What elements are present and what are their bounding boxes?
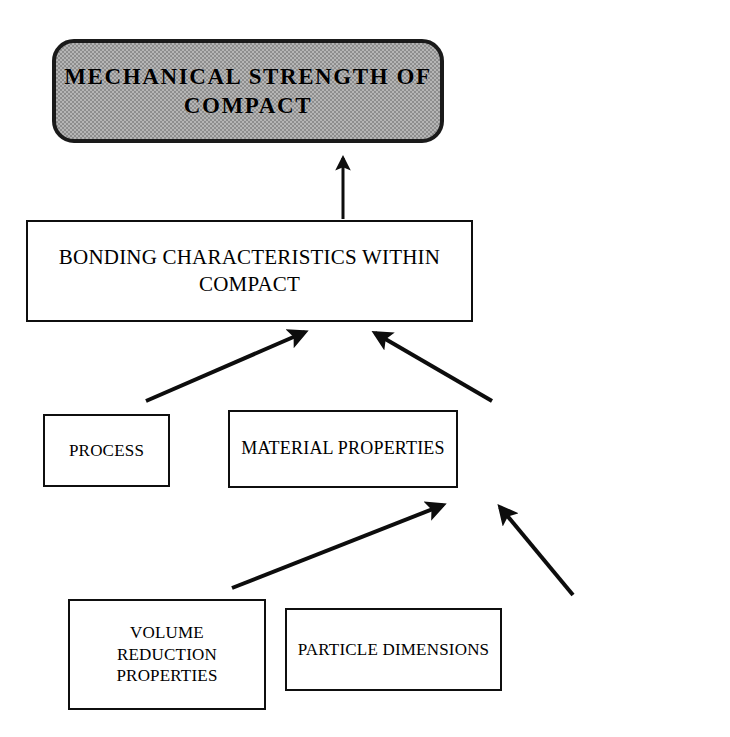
- node-process[interactable]: PROCESS: [43, 414, 170, 487]
- node-material-properties[interactable]: MATERIAL PROPERTIES: [228, 410, 458, 488]
- node-label-root: MECHANICAL STRENGTH OF COMPACT: [56, 62, 440, 121]
- diagram-canvas: MECHANICAL STRENGTH OF COMPACT BONDING C…: [0, 0, 730, 737]
- node-label-material: MATERIAL PROPERTIES: [233, 437, 453, 460]
- arrow-material-to-bonding: [375, 333, 492, 401]
- arrow-volume-to-material: [232, 505, 443, 588]
- node-bonding-characteristics-within-compact[interactable]: BONDING CHARACTERISTICS WITHIN COMPACT: [26, 220, 473, 322]
- node-label-process: PROCESS: [61, 440, 152, 462]
- node-volume-reduction-properties[interactable]: VOLUME REDUCTION PROPERTIES: [68, 599, 266, 710]
- node-particle-dimensions[interactable]: PARTICLE DIMENSIONS: [285, 608, 502, 691]
- arrow-particle-to-material: [500, 507, 573, 595]
- node-label-volume: VOLUME REDUCTION PROPERTIES: [70, 622, 264, 687]
- arrow-process-to-bonding: [146, 332, 305, 401]
- node-label-bonding: BONDING CHARACTERISTICS WITHIN COMPACT: [28, 244, 471, 298]
- node-mechanical-strength-of-compact[interactable]: MECHANICAL STRENGTH OF COMPACT: [52, 39, 444, 143]
- node-label-particle: PARTICLE DIMENSIONS: [290, 639, 498, 661]
